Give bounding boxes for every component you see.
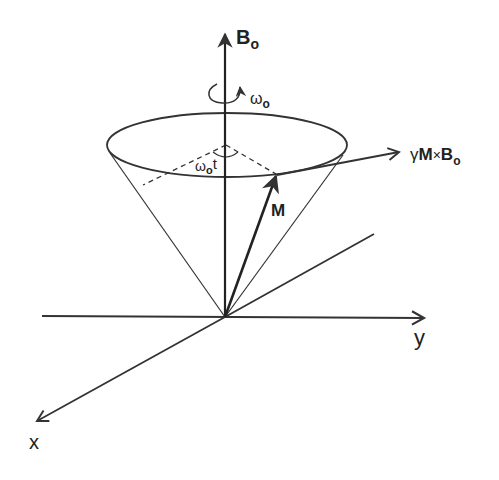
torque-label: γM×Bo <box>410 145 460 168</box>
x-axis-back <box>225 234 374 317</box>
omega-t-label: ωot <box>195 155 218 176</box>
x-axis-label: x <box>29 431 39 453</box>
b0-label: Bo <box>236 26 259 52</box>
omega-label: ωo <box>250 90 270 111</box>
magnetization-vector <box>225 176 276 317</box>
torque-vector <box>277 152 399 175</box>
y-axis <box>42 316 424 318</box>
y-axis-label: y <box>414 325 425 350</box>
x-axis <box>37 317 225 421</box>
precession-diagram: Bo ωo ωot M γM×Bo y x <box>0 0 499 480</box>
dashed-line-to-m <box>226 145 276 174</box>
cone-right-edge <box>225 155 343 317</box>
magnetization-label: M <box>271 201 285 220</box>
cone-left-edge <box>110 153 225 317</box>
